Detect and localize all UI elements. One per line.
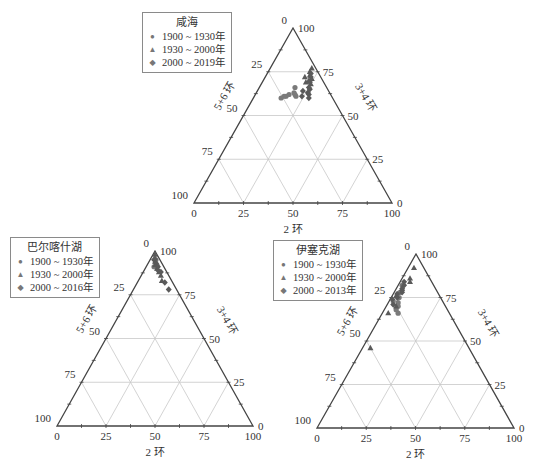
grid-line xyxy=(366,298,440,429)
legend-item-period-3: ◆2000 ~ 2013年 xyxy=(279,284,356,297)
grid-line xyxy=(82,382,107,426)
grid-line xyxy=(343,159,368,203)
legend-item-period-2: ▲1930 ~ 2000年 xyxy=(148,43,225,56)
right-tick-label: 75 xyxy=(323,66,335,78)
legend-label: 1930 ~ 2000年 xyxy=(293,271,356,284)
bottom-tick-label: 25 xyxy=(238,207,250,219)
bottom-tick-label: 75 xyxy=(459,432,471,444)
legend-label: 1900 ~ 1930年 xyxy=(293,258,356,271)
left-tick-label: 50 xyxy=(350,327,362,339)
left-tick-label: 50 xyxy=(89,325,101,337)
triangle-marker-icon: ▲ xyxy=(279,271,288,284)
bottom-tick-label: 0 xyxy=(54,430,60,442)
right-tick-label: 50 xyxy=(470,335,482,347)
legend-label: 2000 ~ 2019年 xyxy=(162,56,225,69)
legend-label: 2000 ~ 2016年 xyxy=(30,281,93,294)
legend-item-period-3: ◆2000 ~ 2016年 xyxy=(16,281,93,294)
diamond-marker-icon: ◆ xyxy=(148,56,157,69)
legend-item-period-2: ▲1930 ~ 2000年 xyxy=(16,268,93,281)
left-tick-label: 75 xyxy=(65,368,77,380)
legend-label: 2000 ~ 2013年 xyxy=(293,284,356,297)
left-tick-label: 100 xyxy=(172,189,189,201)
diamond-marker-icon: ◆ xyxy=(16,281,25,294)
grid-line xyxy=(106,295,180,426)
data-point-triangle xyxy=(302,74,308,79)
right-tick-label: 75 xyxy=(446,292,458,304)
bottom-axis-title: 2 环 xyxy=(145,446,164,458)
data-point-diamond xyxy=(300,88,306,94)
legend-issyk-kul-lake: 伊塞克湖 ●1900 ~ 1930年 ▲1930 ~ 2000年 ◆2000 ~… xyxy=(273,240,363,301)
data-point-triangle xyxy=(385,310,391,315)
bottom-tick-label: 25 xyxy=(101,430,113,442)
left-tick-label: 100 xyxy=(295,414,312,426)
bottom-tick-label: 25 xyxy=(361,432,373,444)
grid-line xyxy=(465,385,490,429)
grid-line xyxy=(219,159,244,203)
left-tick-label: 25 xyxy=(374,284,386,296)
left-tick-label: 50 xyxy=(227,102,239,114)
legend-aral-sea: 咸海 ●1900 ~ 1930年 ▲1930 ~ 2000年 ◆2000 ~ 2… xyxy=(142,12,232,73)
triangle-marker-icon: ▲ xyxy=(16,268,25,281)
data-point-triangle xyxy=(411,265,417,270)
data-point-diamond xyxy=(166,286,172,292)
legend-item-period-1: ●1900 ~ 1930年 xyxy=(279,258,356,271)
legend-title: 咸海 xyxy=(148,16,225,29)
right-tick-label: 75 xyxy=(185,289,197,301)
right-tick-label: 100 xyxy=(421,248,438,260)
circle-marker-icon: ● xyxy=(16,255,25,268)
legend-title: 伊塞克湖 xyxy=(279,244,356,257)
legend-label: 1900 ~ 1930年 xyxy=(30,255,93,268)
legend-balkhash-lake: 巴尔喀什湖 ●1900 ~ 1930年 ▲1930 ~ 2000年 ◆2000 … xyxy=(10,237,100,298)
bottom-tick-label: 50 xyxy=(150,430,162,442)
right-tick-label: 50 xyxy=(348,110,360,122)
legend-item-period-3: ◆2000 ~ 2019年 xyxy=(148,56,225,69)
legend-item-period-2: ▲1930 ~ 2000年 xyxy=(279,271,356,284)
bottom-axis-title: 2 环 xyxy=(283,223,302,235)
left-tick-label: 75 xyxy=(325,371,337,383)
right-tick-label: 25 xyxy=(495,379,507,391)
data-point-circle xyxy=(293,94,298,99)
bottom-tick-label: 75 xyxy=(337,207,349,219)
bottom-tick-label: 50 xyxy=(410,432,422,444)
right-tick-label: 50 xyxy=(209,333,221,345)
left-tick-label: 0 xyxy=(405,240,411,252)
bottom-tick-label: 0 xyxy=(314,432,320,444)
right-tick-label: 25 xyxy=(372,153,384,165)
bottom-tick-label: 100 xyxy=(384,207,401,219)
grid-line xyxy=(342,385,367,429)
data-point-circle xyxy=(279,95,284,100)
left-tick-label: 75 xyxy=(202,145,214,157)
ternary-figure: 0002525255050507575751001001002 环5+6 环3+… xyxy=(0,0,534,469)
grid-line xyxy=(391,298,465,429)
legend-item-period-1: ●1900 ~ 1930年 xyxy=(16,255,93,268)
circle-marker-icon: ● xyxy=(148,30,157,43)
legend-title: 巴尔喀什湖 xyxy=(16,241,93,254)
bottom-tick-label: 0 xyxy=(191,207,197,219)
triangle-marker-icon: ▲ xyxy=(148,43,157,56)
left-tick-label: 25 xyxy=(114,281,126,293)
grid-line xyxy=(131,295,205,426)
diamond-marker-icon: ◆ xyxy=(279,284,288,297)
bottom-tick-label: 100 xyxy=(245,430,262,442)
bottom-tick-label: 75 xyxy=(199,430,211,442)
right-tick-label: 100 xyxy=(298,22,315,34)
legend-item-period-1: ●1900 ~ 1930年 xyxy=(148,30,225,43)
data-point-circle xyxy=(396,311,401,316)
bottom-tick-label: 50 xyxy=(288,207,300,219)
left-tick-label: 25 xyxy=(251,58,263,70)
data-point-diamond xyxy=(306,95,312,101)
legend-label: 1930 ~ 2000年 xyxy=(162,43,225,56)
legend-label: 1900 ~ 1930年 xyxy=(162,30,225,43)
bottom-axis-title: 2 环 xyxy=(406,448,425,460)
left-tick-label: 0 xyxy=(144,237,150,249)
left-tick-label: 0 xyxy=(282,14,288,26)
data-point-triangle xyxy=(367,345,373,350)
left-tick-label: 100 xyxy=(35,412,52,424)
bottom-tick-label: 100 xyxy=(506,432,523,444)
circle-marker-icon: ● xyxy=(279,258,288,271)
right-tick-label: 25 xyxy=(234,376,246,388)
right-tick-label: 100 xyxy=(160,245,177,257)
data-point-diamond xyxy=(299,93,305,99)
grid-line xyxy=(204,382,229,426)
legend-label: 1930 ~ 2000年 xyxy=(30,268,93,281)
